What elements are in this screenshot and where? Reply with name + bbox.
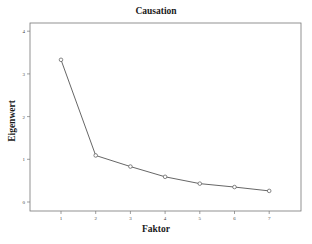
- x-tick-label: 6: [233, 216, 236, 221]
- data-points: [59, 58, 271, 193]
- data-point-marker: [59, 58, 63, 62]
- scree-plot: 01234 1234567: [0, 0, 312, 244]
- y-axis: 01234: [23, 29, 31, 205]
- y-tick-label: 0: [23, 200, 26, 205]
- data-point-marker: [198, 182, 202, 186]
- x-tick-label: 7: [268, 216, 271, 221]
- data-point-marker: [233, 185, 237, 189]
- x-tick-label: 2: [94, 216, 97, 221]
- x-tick-label: 5: [199, 216, 202, 221]
- x-tick-label: 4: [164, 216, 167, 221]
- data-point-marker: [267, 189, 271, 193]
- x-tick-label: 3: [129, 216, 132, 221]
- y-tick-label: 1: [23, 157, 26, 162]
- y-tick-label: 4: [23, 29, 26, 34]
- y-tick-label: 2: [23, 115, 26, 120]
- x-axis: 1234567: [60, 211, 271, 221]
- data-point-marker: [129, 165, 133, 169]
- plot-frame: [30, 23, 301, 211]
- eigenvalue-line: [61, 60, 269, 191]
- data-point-marker: [94, 154, 98, 158]
- data-point-marker: [163, 175, 167, 179]
- x-tick-label: 1: [60, 216, 63, 221]
- y-tick-label: 3: [23, 72, 26, 77]
